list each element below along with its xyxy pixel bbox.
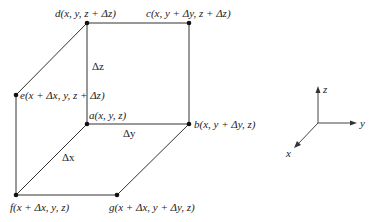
node-a bbox=[85, 122, 90, 127]
y-axis-arrow-icon bbox=[350, 121, 357, 126]
label-delta-z: Δz bbox=[92, 60, 104, 72]
node-e bbox=[14, 93, 19, 98]
label-c: c(x, y + Δy, z + Δz) bbox=[146, 7, 231, 20]
axis-label-y: y bbox=[359, 117, 365, 129]
label-f: f(x + Δx, y, z) bbox=[10, 201, 69, 214]
box-diagram: d(x, y, z + Δz) c(x, y + Δy, z + Δz) e(x… bbox=[0, 0, 373, 222]
label-b: b(x, y + Δy, z) bbox=[194, 118, 256, 131]
z-axis-arrow-icon bbox=[316, 86, 321, 93]
coordinate-axes: z y x bbox=[285, 83, 365, 159]
axis-label-x: x bbox=[285, 147, 291, 159]
node-g bbox=[115, 193, 120, 198]
node-c bbox=[187, 21, 192, 26]
node-d bbox=[85, 21, 90, 26]
label-e: e(x + Δx, y, z + Δz) bbox=[20, 89, 105, 102]
label-d: d(x, y, z + Δz) bbox=[55, 7, 116, 20]
label-delta-y: Δy bbox=[123, 127, 136, 139]
label-a: a(x, y, z) bbox=[89, 109, 127, 122]
label-g: g(x + Δx, y + Δy, z) bbox=[109, 201, 195, 214]
node-b bbox=[187, 122, 192, 127]
edge-a-f bbox=[16, 124, 87, 195]
x-axis bbox=[298, 123, 318, 144]
axis-label-z: z bbox=[322, 83, 328, 95]
edge-d-e bbox=[16, 23, 87, 95]
node-f bbox=[14, 193, 19, 198]
label-delta-x: Δx bbox=[62, 151, 75, 163]
